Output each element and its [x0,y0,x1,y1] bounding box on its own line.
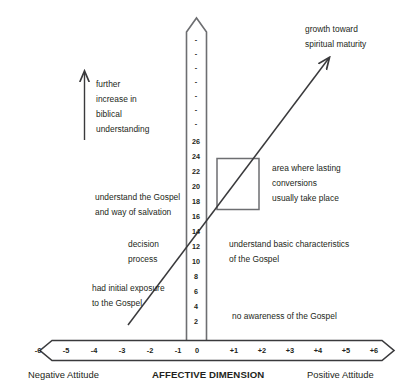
growth-toward-line-1: growth toward [305,24,358,36]
horizontal-axis-tick-neg2: -2 [135,346,165,355]
basic-characteristics-line-1: understand basic characteristics [229,239,349,251]
vertical-axis-dash: - [185,120,207,128]
vertical-axis-tick-22: 22 [185,168,207,176]
conversions-area-line-1: area where lasting [272,163,341,175]
vertical-axis-tick-12: 12 [185,243,207,251]
understand-gospel-line-2: and way of salvation [95,207,171,219]
growth-toward-line-2: spiritual maturity [305,39,366,51]
initial-exposure-line-1: had initial exposure [92,283,165,295]
vertical-axis-tick-10: 10 [185,258,207,266]
decision-process-line-2: process [128,254,157,266]
engel-scale-diagram: - - - - - - - 26 24 22 20 18 16 14 12 10… [0,0,398,392]
horizontal-axis-tick-pos1: +1 [219,346,249,355]
further-increase-line-4: understanding [96,124,149,136]
vertical-axis-dash: - [185,64,207,72]
conversions-area-line-2: conversions [272,178,317,190]
vertical-axis-dash: - [185,50,207,58]
basic-characteristics-line-2: of the Gospel [229,254,279,266]
no-awareness-label: no awareness of the Gospel [232,311,337,323]
horizontal-axis-tick-neg3: -3 [107,346,137,355]
positive-attitude-caption: Positive Attitude [307,369,374,380]
horizontal-axis-tick-neg6: -6 [23,346,53,355]
vertical-axis-tick-2: 2 [185,318,207,326]
vertical-axis-dash: - [185,78,207,86]
decision-process-line-1: decision [128,239,159,251]
horizontal-axis-tick-0: 0 [182,346,212,355]
further-increase-line-3: biblical [96,109,122,121]
vertical-axis-tick-20: 20 [185,183,207,191]
horizontal-axis-tick-neg5: -5 [51,346,81,355]
initial-exposure-line-2: to the Gospel [92,298,142,310]
vertical-axis-tick-18: 18 [185,198,207,206]
horizontal-axis-tick-pos4: +4 [303,346,333,355]
vertical-axis-tick-16: 16 [185,213,207,221]
vertical-axis-dash: - [185,36,207,44]
further-increase-line-1: further [96,79,120,91]
vertical-axis-dash: - [185,92,207,100]
conversions-region-box [217,159,259,210]
horizontal-axis-tick-pos2: +2 [247,346,277,355]
horizontal-axis-tick-pos6: +6 [359,346,389,355]
understand-gospel-line-1: understand the Gospel [95,192,180,204]
vertical-axis-tick-8: 8 [185,273,207,281]
vertical-axis-dash: - [185,106,207,114]
affective-dimension-title: AFFECTIVE DIMENSION [152,369,264,380]
negative-attitude-caption: Negative Attitude [28,369,99,380]
horizontal-axis-tick-pos5: +5 [331,346,361,355]
vertical-axis-tick-4: 4 [185,303,207,311]
horizontal-axis-tick-neg4: -4 [79,346,109,355]
horizontal-axis-tick-pos3: +3 [275,346,305,355]
further-increase-line-2: increase in [96,94,137,106]
vertical-axis-tick-6: 6 [185,288,207,296]
vertical-axis-tick-24: 24 [185,153,207,161]
vertical-axis-tick-26: 26 [185,138,207,146]
vertical-axis-tick-14: 14 [185,228,207,236]
conversions-area-line-3: usually take place [272,193,339,205]
